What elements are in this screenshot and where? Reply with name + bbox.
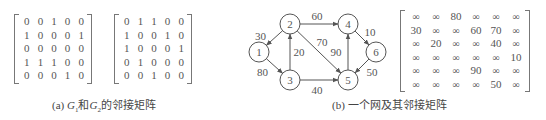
node-label: 3 [287, 74, 293, 86]
edge-weight-label: 70 [317, 36, 329, 48]
matrix-cell: ∞ [506, 64, 526, 78]
matrix-cell: ∞ [406, 78, 426, 92]
matrix-cell: ∞ [506, 24, 526, 38]
matrix-cell: ∞ [486, 10, 506, 24]
edge-weight-label: 60 [312, 10, 324, 22]
matrix-cell: ∞ [466, 51, 486, 65]
matrix-row: ∞∞∞∞50∞ [406, 78, 526, 92]
matrix-cell: ∞ [426, 64, 446, 78]
matrix-cell: ∞ [486, 64, 506, 78]
matrix-cell: 20 [426, 37, 446, 51]
matrix-cell: ∞ [406, 51, 426, 65]
matrix-cell: ∞ [406, 10, 426, 24]
matrix-cell: 60 [466, 24, 486, 38]
matrix-cell: ∞ [426, 24, 446, 38]
graph-node-6: 6 [366, 42, 386, 62]
matrix-cell: ∞ [506, 10, 526, 24]
node-label: 2 [287, 18, 293, 30]
node-label: 1 [256, 46, 262, 58]
matrix-cell: ∞ [486, 51, 506, 65]
matrix-cell: ∞ [446, 51, 466, 65]
matrix-cell: ∞ [446, 37, 466, 51]
matrix-cell: 50 [486, 78, 506, 92]
graph-node-5: 5 [338, 70, 358, 90]
matrix-b-table: ∞∞80∞∞∞30∞∞6070∞∞20∞∞40∞∞∞∞∞∞10∞∞∞90∞∞∞∞… [406, 10, 526, 92]
matrix-cell: 40 [486, 37, 506, 51]
adjacency-matrix-b: ∞∞80∞∞∞30∞∞6070∞∞20∞∞40∞∞∞∞∞∞10∞∞∞90∞∞∞∞… [400, 10, 530, 92]
node-label: 5 [345, 74, 351, 86]
edge-weight-label: 30 [255, 30, 267, 42]
node-label: 4 [345, 18, 351, 30]
matrix-cell: ∞ [506, 37, 526, 51]
left-bracket [400, 10, 405, 92]
matrix-cell: ∞ [406, 37, 426, 51]
matrix-row: ∞20∞∞40∞ [406, 37, 526, 51]
matrix-cell: 10 [506, 51, 526, 65]
matrix-cell: ∞ [506, 78, 526, 92]
matrix-cell: ∞ [466, 10, 486, 24]
matrix-row: ∞∞80∞∞∞ [406, 10, 526, 24]
edge-weight-label: 20 [294, 46, 306, 58]
graph-node-3: 3 [280, 70, 300, 90]
matrix-cell: ∞ [466, 37, 486, 51]
matrix-cell: ∞ [446, 64, 466, 78]
matrix-cell: ∞ [406, 64, 426, 78]
graph-node-2: 2 [280, 14, 300, 34]
graph-node-4: 4 [338, 14, 358, 34]
matrix-cell: 70 [486, 24, 506, 38]
edge-2-1 [266, 31, 282, 46]
matrix-cell: ∞ [446, 24, 466, 38]
matrix-cell: ∞ [426, 10, 446, 24]
matrix-cell: ∞ [446, 78, 466, 92]
edge-weight-label: 50 [367, 66, 379, 78]
caption-b: (b) 一个网及其邻接矩阵 [332, 96, 447, 112]
matrix-cell: ∞ [466, 78, 486, 92]
matrix-cell: 30 [406, 24, 426, 38]
matrix-cell: 90 [466, 64, 486, 78]
matrix-row: ∞∞∞∞∞10 [406, 51, 526, 65]
edge-weight-label: 80 [257, 66, 269, 78]
matrix-cell: 80 [446, 10, 466, 24]
edge-weight-label: 10 [365, 26, 377, 38]
edge-1-3 [266, 59, 282, 74]
edge-weight-label: 90 [331, 46, 343, 58]
matrix-row: ∞∞∞90∞∞ [406, 64, 526, 78]
matrix-row: 30∞∞6070∞ [406, 24, 526, 38]
graph-node-1: 1 [249, 42, 269, 62]
edge-weight-label: 40 [312, 84, 324, 96]
node-label: 6 [373, 46, 379, 58]
matrix-cell: ∞ [426, 78, 446, 92]
matrix-cell: ∞ [426, 51, 446, 65]
